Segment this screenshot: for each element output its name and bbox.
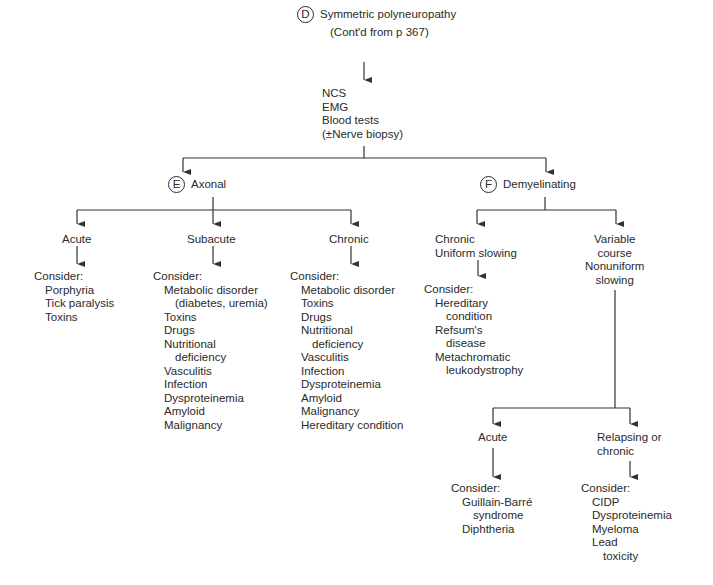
chronic-consider-list: Consider: Metabolic disorder Toxins Drug…	[290, 270, 403, 432]
consider-heading: Consider:	[290, 270, 403, 284]
list-item: Vasculitis	[290, 351, 403, 365]
acute-label: Acute	[62, 233, 91, 247]
variable-label-line: course	[585, 247, 644, 261]
list-item: Toxins	[290, 297, 403, 311]
axonal-node: EAxonal	[168, 176, 226, 193]
demyelinating-label: Demyelinating	[503, 178, 576, 190]
list-item: Diphtheria	[451, 523, 532, 537]
list-item: Tick paralysis	[34, 297, 114, 311]
root-title: Symmetric polyneuropathy	[320, 8, 456, 20]
lower-acute-consider-list: Consider: Guillain-Barré syndrome Diphth…	[451, 482, 532, 536]
list-item: (diabetes, uremia)	[153, 297, 268, 311]
tests-list: NCS EMG Blood tests (±Nerve biopsy)	[322, 87, 403, 141]
list-item: Drugs	[153, 324, 268, 338]
uniform-label-line: Chronic	[435, 233, 517, 247]
relapsing-label-line: chronic	[597, 445, 662, 459]
list-item: Lead	[581, 536, 672, 550]
list-item: Toxins	[34, 311, 114, 325]
root-subtitle: (Cont'd from p 367)	[330, 26, 429, 40]
list-item: Refsum's	[424, 324, 523, 338]
list-item: Infection	[290, 365, 403, 379]
list-item: Guillain-Barré	[451, 496, 532, 510]
test-item: EMG	[322, 101, 403, 115]
list-item: toxicity	[581, 550, 672, 564]
list-item: Myeloma	[581, 523, 672, 537]
list-item: Hereditary	[424, 297, 523, 311]
variable-label-line: slowing	[585, 274, 644, 288]
demyelinating-node: FDemyelinating	[480, 176, 576, 193]
list-item: Malignancy	[290, 405, 403, 419]
list-item: Hereditary condition	[290, 419, 403, 433]
list-item: Amyloid	[290, 392, 403, 406]
list-item: Nutritional	[290, 324, 403, 338]
list-item: CIDP	[581, 496, 672, 510]
acute-consider-list: Consider: Porphyria Tick paralysis Toxin…	[34, 270, 114, 324]
variable-label-line: Nonuniform	[585, 260, 644, 274]
uniform-label-line: Uniform slowing	[435, 247, 517, 261]
relapsing-consider-list: Consider: CIDP Dysproteinemia Myeloma Le…	[581, 482, 672, 563]
list-item: deficiency	[290, 338, 403, 352]
list-item: condition	[424, 310, 523, 324]
subacute-label: Subacute	[187, 233, 236, 247]
uniform-consider-list: Consider: Hereditary condition Refsum's …	[424, 283, 523, 378]
list-item: Toxins	[153, 311, 268, 325]
list-item: Dysproteinemia	[153, 392, 268, 406]
relapsing-label: Relapsing or chronic	[597, 431, 662, 458]
variable-label: Variable course Nonuniform slowing	[585, 233, 644, 287]
list-item: Amyloid	[153, 405, 268, 419]
list-item: Metabolic disorder	[290, 284, 403, 298]
consider-heading: Consider:	[581, 482, 672, 496]
test-item: (±Nerve biopsy)	[322, 128, 403, 142]
list-item: Metachromatic	[424, 351, 523, 365]
list-item: Infection	[153, 378, 268, 392]
list-item: Vasculitis	[153, 365, 268, 379]
consider-heading: Consider:	[424, 283, 523, 297]
list-item: Dysproteinemia	[290, 378, 403, 392]
list-item: Porphyria	[34, 284, 114, 298]
consider-heading: Consider:	[34, 270, 114, 284]
list-item: Nutritional	[153, 338, 268, 352]
list-item: deficiency	[153, 351, 268, 365]
relapsing-label-line: Relapsing or	[597, 431, 662, 445]
list-item: Malignancy	[153, 419, 268, 433]
list-item: Dysproteinemia	[581, 509, 672, 523]
list-item: syndrome	[451, 509, 532, 523]
test-item: NCS	[322, 87, 403, 101]
badge-e: E	[168, 176, 185, 193]
test-item: Blood tests	[322, 114, 403, 128]
list-item: leukodystrophy	[424, 364, 523, 378]
uniform-label: Chronic Uniform slowing	[435, 233, 517, 260]
root-node: DSymmetric polyneuropathy	[297, 6, 456, 23]
chronic-label: Chronic	[329, 233, 369, 247]
list-item: Metabolic disorder	[153, 284, 268, 298]
list-item: disease	[424, 337, 523, 351]
axonal-label: Axonal	[191, 178, 226, 190]
lower-acute-label: Acute	[478, 431, 507, 445]
badge-d: D	[297, 6, 314, 23]
badge-f: F	[480, 176, 497, 193]
variable-label-line: Variable	[585, 233, 644, 247]
subacute-consider-list: Consider: Metabolic disorder (diabetes, …	[153, 270, 268, 432]
consider-heading: Consider:	[153, 270, 268, 284]
list-item: Drugs	[290, 311, 403, 325]
consider-heading: Consider:	[451, 482, 532, 496]
